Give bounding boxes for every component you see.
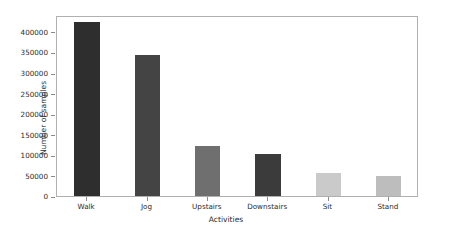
x-tick-label-stand: Stand [377, 203, 398, 211]
y-tick-label: 250000 [21, 91, 48, 98]
y-tick-label: 350000 [21, 49, 48, 56]
y-tick-label: 200000 [21, 111, 48, 118]
bars-layer [57, 17, 417, 196]
x-axis-label: Activities [0, 215, 452, 224]
bar-jog [135, 55, 160, 197]
y-tick-label: 0 [43, 193, 48, 200]
y-tick-mark [51, 94, 55, 95]
y-tick-mark [51, 53, 55, 54]
x-tick-label-downstairs: Downstairs [247, 203, 287, 211]
y-tick-mark [51, 156, 55, 157]
y-tick-label: 300000 [21, 70, 48, 77]
y-tick-mark [51, 32, 55, 33]
y-tick-mark [51, 135, 55, 136]
plot-area [56, 16, 418, 197]
x-tick-mark [267, 197, 268, 201]
x-tick-label-jog: Jog [141, 203, 152, 211]
bar-downstairs [255, 154, 280, 196]
y-tick-label: 400000 [21, 29, 48, 36]
x-tick-label-walk: Walk [78, 203, 95, 211]
x-tick-label-sit: Sit [323, 203, 332, 211]
y-tick-mark [51, 197, 55, 198]
x-tick-label-upstairs: Upstairs [192, 203, 222, 211]
y-tick-label: 150000 [21, 132, 48, 139]
bar-upstairs [195, 146, 220, 196]
x-tick-mark [328, 197, 329, 201]
y-tick-mark [51, 74, 55, 75]
bar-stand [376, 176, 401, 196]
y-tick-label: 100000 [21, 152, 48, 159]
y-tick-mark [51, 115, 55, 116]
y-tick-mark [51, 176, 55, 177]
x-tick-mark [86, 197, 87, 201]
y-tick-label: 50000 [25, 173, 48, 180]
bar-sit [316, 173, 341, 196]
bar-chart-figure: Number of samples 0500001000001500002000… [0, 0, 452, 236]
x-tick-mark [388, 197, 389, 201]
x-tick-mark [207, 197, 208, 201]
bar-walk [74, 22, 99, 196]
x-tick-mark [147, 197, 148, 201]
